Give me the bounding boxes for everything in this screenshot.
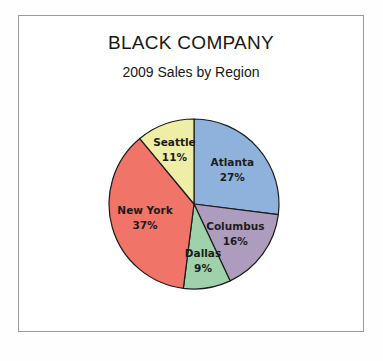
chart-canvas: BLACK COMPANY 2009 Sales by Region Atlan… [0, 0, 383, 361]
pie-label-new-york: New York [117, 204, 173, 216]
pie-value-atlanta: 27% [220, 171, 246, 183]
pie-chart-svg: Atlanta27%Columbus16%Dallas9%New York37%… [19, 16, 365, 333]
pie-label-columbus: Columbus [206, 220, 264, 232]
pie-value-new-york: 37% [132, 219, 158, 231]
pie-value-seattle: 11% [162, 151, 188, 163]
pie-value-columbus: 16% [223, 235, 249, 247]
pie-chart: Atlanta27%Columbus16%Dallas9%New York37%… [19, 16, 365, 333]
pie-label-seattle: Seattle [153, 136, 196, 148]
pie-value-dallas: 9% [194, 262, 212, 274]
chart-frame: BLACK COMPANY 2009 Sales by Region Atlan… [18, 15, 364, 332]
pie-label-atlanta: Atlanta [211, 156, 254, 168]
pie-label-dallas: Dallas [185, 247, 221, 259]
